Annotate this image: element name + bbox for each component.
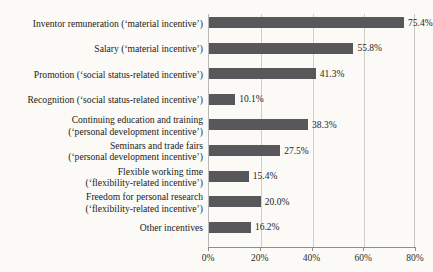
bar-value-label: 55.8% <box>357 43 382 53</box>
bar-value-label: 75.4% <box>408 18 433 28</box>
bar-row: Other incentives16.2% <box>0 222 423 248</box>
bar-value-label: 27.5% <box>284 146 309 156</box>
x-axis-tick-label: 0% <box>202 253 215 263</box>
bar <box>209 43 353 54</box>
category-label: Other incentives <box>3 222 203 233</box>
category-label: Inventor remuneration (‘material incenti… <box>3 18 203 29</box>
x-axis-tick-label: 40% <box>303 253 320 263</box>
bar-value-label: 20.0% <box>265 197 290 207</box>
bar-row: Promotion (‘social status-related incent… <box>0 68 423 94</box>
bar <box>209 145 280 156</box>
bar-row: Salary (‘material incentive’)55.8% <box>0 43 423 69</box>
x-axis-tick-label: 80% <box>406 253 423 263</box>
category-label: Salary (‘material incentive’) <box>3 43 203 54</box>
bar-value-label: 38.3% <box>312 120 337 130</box>
bar <box>209 17 404 28</box>
category-label: Continuing education and training (‘pers… <box>3 114 203 137</box>
bar-value-label: 41.3% <box>320 69 345 79</box>
category-label: Freedom for personal research (‘flexibil… <box>3 191 203 214</box>
chart-title <box>8 0 408 3</box>
x-axis-tick-label: 60% <box>355 253 372 263</box>
bar <box>209 222 251 233</box>
bar-row: Freedom for personal research (‘flexibil… <box>0 196 423 222</box>
bar-value-label: 15.4% <box>253 171 278 181</box>
bar-value-label: 16.2% <box>255 222 280 232</box>
bar-value-label: 10.1% <box>239 94 264 104</box>
category-label: Flexible working time (‘flexibility-rela… <box>3 166 203 189</box>
x-axis-tick-label: 20% <box>251 253 268 263</box>
bar-row: Inventor remuneration (‘material incenti… <box>0 17 423 43</box>
bar <box>209 119 308 130</box>
bar <box>209 196 261 207</box>
category-label: Recognition (‘social status-related ince… <box>3 94 203 105</box>
bar <box>209 68 316 79</box>
category-label: Promotion (‘social status-related incent… <box>3 69 203 80</box>
category-label: Seminars and trade fairs (‘personal deve… <box>3 140 203 163</box>
bar <box>209 94 235 105</box>
bar <box>209 171 249 182</box>
